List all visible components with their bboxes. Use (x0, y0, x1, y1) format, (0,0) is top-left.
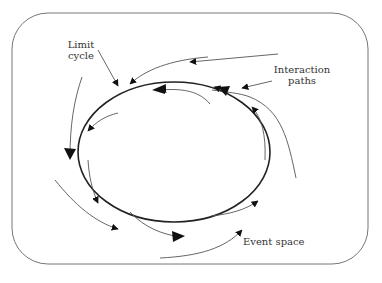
limit-cycle-label: Limit cycle (64, 39, 98, 61)
diagram-canvas (0, 0, 382, 283)
arrowhead (152, 84, 166, 94)
interaction-path (212, 90, 296, 178)
interaction-paths-label: Interaction paths (272, 64, 332, 86)
limit-cycle-pointer (98, 50, 118, 86)
interaction-path (70, 77, 82, 157)
interaction-pointer (242, 81, 272, 88)
interaction-path (160, 90, 210, 104)
arrowhead (172, 231, 185, 242)
limit-cycle-label-line2: cycle (64, 50, 98, 61)
interaction-paths-label-line1: Interaction (272, 64, 332, 75)
event-space-label: Event space (243, 236, 303, 247)
limit-cycle-label-line1: Limit (64, 39, 98, 50)
arrowhead (64, 148, 76, 160)
interaction-path (55, 180, 118, 229)
interaction-paths (55, 50, 296, 258)
interaction-path (190, 54, 278, 62)
interaction-path (88, 160, 98, 203)
interaction-path (252, 107, 265, 160)
limit-cycle-ellipse (78, 82, 270, 222)
interaction-paths-label-line2: paths (272, 75, 332, 86)
